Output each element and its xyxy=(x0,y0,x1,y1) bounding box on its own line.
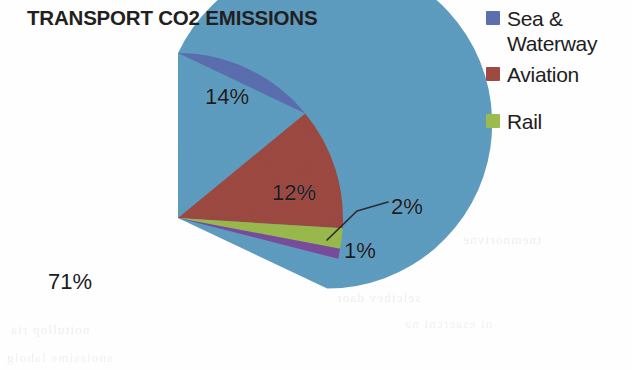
pie-slices-group xyxy=(178,0,492,289)
slice-label-rail: 2% xyxy=(391,194,423,220)
legend-item-sea-waterway[interactable]: Sea & Waterway xyxy=(486,6,632,56)
legend-label-sea-waterway: Sea & Waterway xyxy=(507,6,632,56)
slice-label-aviation: 12% xyxy=(272,180,316,206)
chart-legend: Sea & Waterway Aviation Rail xyxy=(486,6,632,144)
legend-label-aviation: Aviation xyxy=(507,62,579,87)
legend-item-aviation[interactable]: Aviation xyxy=(486,62,632,87)
chart-page: noissime lautca rotces tropsnart 2OC fo … xyxy=(0,0,632,370)
slice-label-sea-waterway: 14% xyxy=(205,84,249,110)
legend-swatch-rail-icon xyxy=(486,114,500,128)
legend-swatch-sea-waterway-icon xyxy=(486,11,500,25)
slice-label-road: 71% xyxy=(48,269,92,295)
legend-item-rail[interactable]: Rail xyxy=(486,109,632,134)
legend-swatch-aviation-icon xyxy=(486,67,500,81)
slice-label-other: 1% xyxy=(344,238,376,264)
legend-label-rail: Rail xyxy=(507,109,542,134)
chart-title: TRANSPORT CO2 EMISSIONS xyxy=(27,6,317,30)
